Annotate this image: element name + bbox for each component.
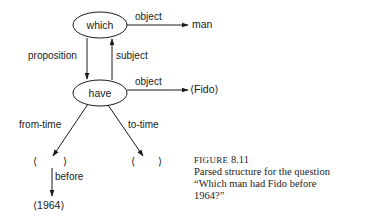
target-year-1964: ⟨1964⟩ (33, 200, 65, 211)
edge-label-subject: subject (116, 50, 148, 61)
to-time-slot-open: ⟨ (131, 156, 135, 167)
figure-caption: FIGURE 8.11 Parsed structure for the que… (194, 154, 364, 202)
caption-line-1: Parsed structure for the question (194, 166, 364, 178)
edge-label-before: before (55, 171, 83, 182)
figure-word: FIGURE (194, 155, 228, 165)
to-time-slot-close: ⟩ (158, 156, 162, 167)
node-which-label: which (73, 19, 127, 31)
target-fido: ⟨Fido⟩ (190, 84, 219, 95)
edge-label-which-object: object (135, 11, 162, 22)
edge-label-from-time: from-time (19, 119, 61, 130)
edge-label-to-time: to-time (128, 119, 159, 130)
node-have-label: have (73, 87, 127, 99)
edge-from-time (53, 104, 88, 156)
figure-label: FIGURE 8.11 (194, 154, 364, 166)
edge-label-have-object: object (135, 76, 162, 87)
edge-label-proposition: proposition (28, 50, 77, 61)
from-time-slot-open: ⟨ (33, 156, 37, 167)
from-time-slot-close: ⟩ (63, 156, 67, 167)
figure-number: 8.11 (231, 154, 249, 165)
edge-to-time (108, 105, 143, 156)
caption-line-2: “Which man had Fido before (194, 178, 364, 190)
caption-line-3: 1964?” (194, 190, 364, 202)
target-man: man (192, 19, 212, 30)
